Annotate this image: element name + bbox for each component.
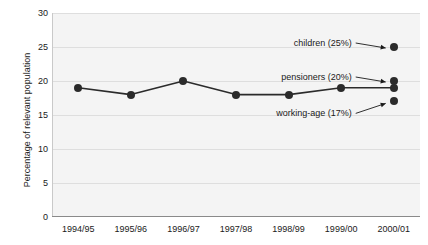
x-tick-label: 1996/97 bbox=[167, 224, 200, 234]
gridline bbox=[52, 81, 420, 82]
x-tick-label: 1999/00 bbox=[325, 224, 358, 234]
x-axis-line bbox=[52, 216, 420, 217]
x-tick-label: 1997/98 bbox=[220, 224, 253, 234]
gridline bbox=[52, 13, 420, 14]
y-axis-line bbox=[52, 13, 53, 217]
plot-area bbox=[52, 13, 420, 217]
annotation-label: working-age (17%) bbox=[276, 108, 352, 118]
annotation-label: pensioners (20%) bbox=[281, 72, 352, 82]
y-axis-title: Percentage of relevant population bbox=[22, 20, 32, 220]
x-tick-label: 1995/96 bbox=[115, 224, 148, 234]
data-point-marker bbox=[337, 84, 345, 92]
x-tick-label: 1994/95 bbox=[62, 224, 95, 234]
gridline bbox=[52, 183, 420, 184]
data-point-marker bbox=[232, 91, 240, 99]
chart-container: 2001 051015202530 Percentage of relevant… bbox=[0, 0, 428, 245]
gridline bbox=[52, 149, 420, 150]
data-point-marker bbox=[127, 91, 135, 99]
x-tick-label: 1998/99 bbox=[272, 224, 305, 234]
x-tick-label: 2000/01 bbox=[377, 224, 410, 234]
gridline bbox=[52, 47, 420, 48]
y-tick-label: 30 bbox=[2, 8, 48, 18]
annotation-label: children (25%) bbox=[294, 38, 352, 48]
gridline bbox=[52, 115, 420, 116]
data-point-marker bbox=[285, 91, 293, 99]
endpoint-marker bbox=[390, 77, 398, 85]
endpoint-marker bbox=[390, 43, 398, 51]
